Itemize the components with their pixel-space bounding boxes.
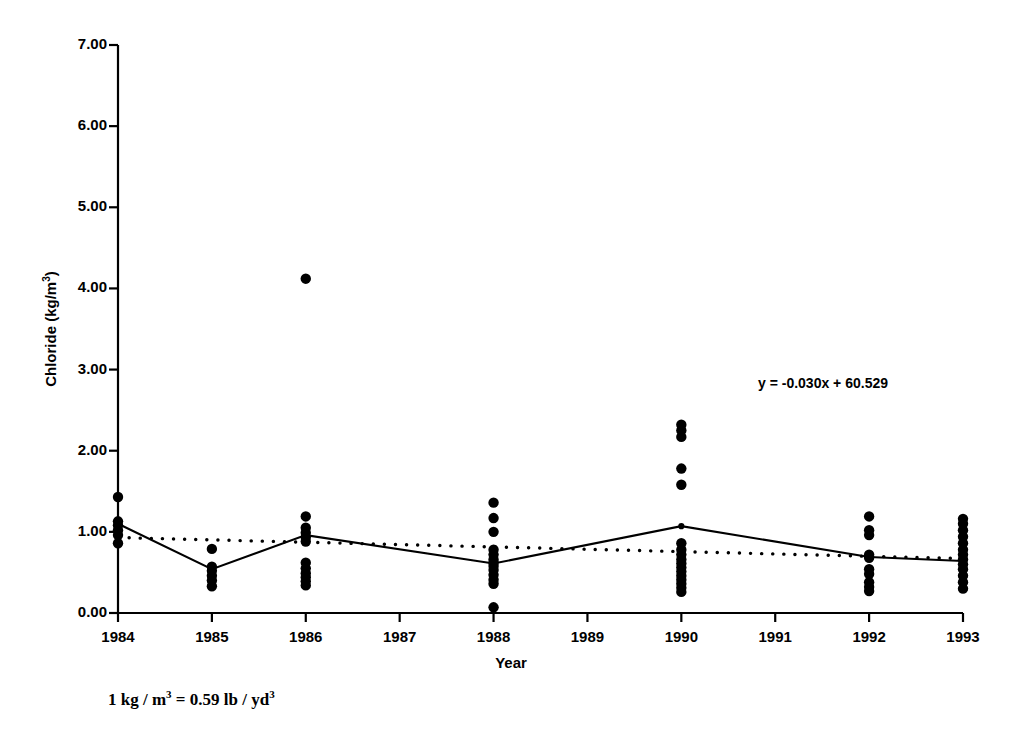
scatter-point — [113, 538, 123, 548]
scatter-point — [301, 580, 311, 590]
x-axis-tick-label: 1987 — [365, 628, 435, 645]
x-axis-tick-label: 1985 — [177, 628, 247, 645]
scatter-point — [488, 602, 498, 612]
y-axis-tick-label: 5.00 — [47, 197, 107, 214]
x-axis-tick-label: 1989 — [552, 628, 622, 645]
scatter-point — [488, 527, 498, 537]
chart-canvas — [0, 0, 1022, 732]
scatter-point — [864, 511, 874, 521]
scatter-point — [864, 586, 874, 596]
mean-line — [115, 521, 966, 573]
x-axis-title: Year — [0, 654, 1022, 671]
scatter-point — [207, 544, 217, 554]
scatter-point — [488, 497, 498, 507]
scatter-point — [488, 513, 498, 523]
unit-conversion-footnote: 1 kg / m3 = 0.59 lb / yd3 — [108, 688, 275, 710]
y-axis-tick-label: 0.00 — [47, 603, 107, 620]
scatter-point — [113, 492, 123, 502]
scatter-point — [301, 273, 311, 283]
x-axis-tick-label: 1990 — [646, 628, 716, 645]
scatter-point — [676, 587, 686, 597]
regression-equation-annotation: y = -0.030x + 60.529 — [758, 375, 888, 391]
scatter-point — [864, 530, 874, 540]
scatter-point — [864, 553, 874, 563]
scatter-point — [301, 536, 311, 546]
scatter-point — [676, 480, 686, 490]
mean-line-marker — [678, 523, 684, 529]
x-axis-ticks — [118, 613, 963, 622]
y-axis-tick-label: 7.00 — [47, 35, 107, 52]
x-axis-tick-label: 1988 — [459, 628, 529, 645]
chart-figure: 0.001.002.003.004.005.006.007.00 1984198… — [0, 0, 1022, 732]
x-axis-tick-label: 1986 — [271, 628, 341, 645]
y-axis-tick-label: 2.00 — [47, 441, 107, 458]
scatter-point — [207, 581, 217, 591]
scatter-point — [958, 583, 968, 593]
y-axis-title: Chloride (kg/m3) — [41, 219, 59, 439]
x-axis-tick-label: 1984 — [83, 628, 153, 645]
scatter-point — [676, 432, 686, 442]
scatter-points — [113, 273, 968, 612]
scatter-point — [301, 511, 311, 521]
y-axis-tick-label: 6.00 — [47, 116, 107, 133]
linear-trend-line — [118, 538, 963, 559]
trend-line — [118, 538, 963, 559]
scatter-point — [488, 579, 498, 589]
scatter-point — [676, 463, 686, 473]
y-axis-tick-label: 1.00 — [47, 522, 107, 539]
x-axis-tick-label: 1991 — [740, 628, 810, 645]
x-axis-tick-label: 1993 — [928, 628, 998, 645]
x-axis-tick-label: 1992 — [834, 628, 904, 645]
axes — [118, 45, 963, 613]
annual-mean-line — [118, 524, 963, 569]
